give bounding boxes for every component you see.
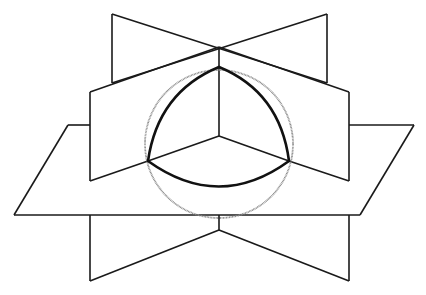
figure-caption — [0, 286, 426, 295]
front-right-plane-top-edge — [219, 47, 349, 92]
lower-left-plane-bottom-edge — [90, 230, 219, 281]
front-left-plane-top-edge — [90, 47, 219, 92]
horizontal-plane-left-edge — [14, 125, 68, 215]
front-vertical-planes-lower — [90, 215, 349, 281]
front-left-plane-lower-edge — [90, 161, 148, 181]
lower-right-plane-bottom-edge — [219, 230, 349, 281]
horizontal-plane-right-edge — [360, 125, 414, 215]
three-planes-sphere-diagram — [0, 0, 426, 295]
front-right-plane-lower-edge — [289, 161, 349, 181]
radius-left — [148, 136, 219, 161]
arc-top-left — [148, 67, 219, 161]
arc-top-right — [219, 67, 289, 161]
radius-right — [219, 136, 289, 161]
arc-bottom — [148, 161, 289, 187]
